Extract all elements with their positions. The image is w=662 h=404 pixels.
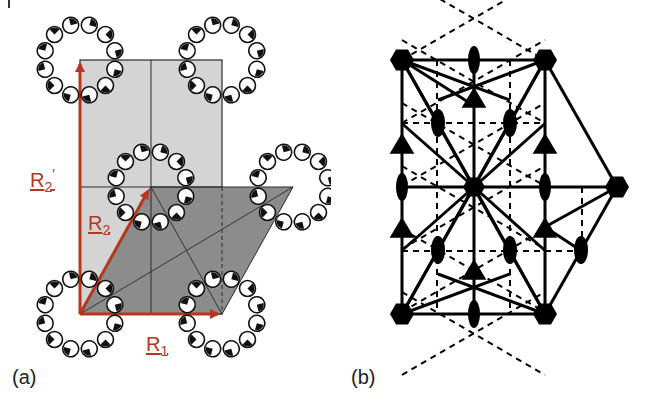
three-fold-axis-icon	[533, 133, 558, 154]
vector-label-r1: R1	[146, 333, 168, 359]
two-fold-axis-icon	[503, 109, 517, 137]
panel-a: R2′ R2 R1 (a)	[0, 0, 331, 404]
panel-label-a: (a)	[12, 366, 36, 389]
vector-label-r2-prime: R2′	[30, 166, 55, 195]
three-fold-axis-icon	[390, 133, 415, 154]
six-fold-axis-icon	[605, 177, 629, 198]
two-fold-axis-icon	[574, 236, 588, 264]
three-fold-axis-icon	[533, 217, 558, 238]
three-fold-axis-icon	[390, 217, 415, 238]
two-fold-axis-icon	[468, 46, 480, 74]
two-fold-axis-icon	[431, 109, 445, 137]
two-fold-axis-icon	[539, 173, 551, 201]
two-fold-axis-icon	[396, 173, 408, 201]
panel-label-b: (b)	[351, 366, 375, 389]
symmetry-diagram-b	[331, 0, 662, 404]
three-fold-axis-icon	[462, 259, 487, 280]
six-fold-axis-icon	[533, 50, 557, 71]
six-fold-axis-icon	[390, 304, 414, 325]
six-fold-axis-icon	[390, 50, 414, 71]
panel-b: (b)	[331, 0, 662, 404]
two-fold-axis-icon	[503, 236, 517, 264]
vector-label-r2: R2	[88, 212, 110, 238]
two-fold-axis-icon	[468, 300, 480, 328]
two-fold-axis-icon	[431, 236, 445, 264]
